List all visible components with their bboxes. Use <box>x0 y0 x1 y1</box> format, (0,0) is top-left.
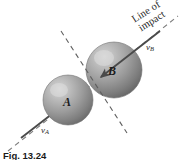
velocity-b-label: vB <box>146 42 154 52</box>
velocity-a-label: vA <box>41 125 49 135</box>
figure-caption: Fig. 13.24 <box>3 150 46 160</box>
sphere-b-label: B <box>108 64 116 79</box>
velocity-a-subscript: A <box>45 128 49 135</box>
velocity-b-subscript: B <box>150 45 154 52</box>
sphere-a-label: A <box>63 95 71 110</box>
impact-figure: Line of impact A B vA vB Fig. 13.24 <box>0 0 181 160</box>
